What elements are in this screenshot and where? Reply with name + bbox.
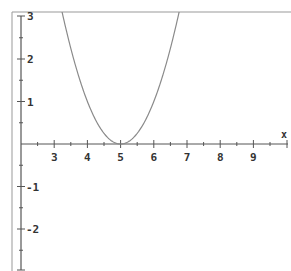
parabola-curve — [58, 0, 184, 144]
y-tick-label: -2 — [26, 223, 39, 236]
y-tick-label: 2 — [27, 53, 34, 66]
tick-labels: 3456789321-1-2x — [26, 10, 287, 236]
x-tick-label: 5 — [117, 151, 124, 164]
x-tick-label: 8 — [217, 151, 224, 164]
x-tick-label: 7 — [184, 151, 191, 164]
curve-layer — [58, 0, 184, 144]
y-tick-label: -1 — [26, 181, 40, 194]
y-tick-label: 3 — [27, 10, 34, 23]
x-axis-label: x — [281, 129, 287, 140]
y-tick-label: 1 — [27, 96, 34, 109]
x-tick-label: 9 — [250, 151, 257, 164]
plot-canvas: 3456789321-1-2x — [0, 0, 291, 271]
x-tick-label: 3 — [51, 151, 58, 164]
axes — [17, 16, 288, 270]
x-tick-label: 4 — [84, 151, 91, 164]
x-tick-label: 6 — [150, 151, 157, 164]
